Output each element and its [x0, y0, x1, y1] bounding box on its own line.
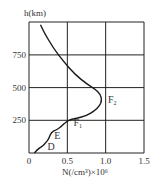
layer-label: E — [54, 130, 60, 141]
layer-label: F2 — [108, 94, 117, 106]
y-tick-label: 750 — [13, 50, 27, 60]
grid — [29, 22, 144, 153]
tick-labels: 00.51.01.5250500750 — [13, 50, 151, 166]
y-tick-label: 250 — [13, 115, 27, 125]
x-axis-label: N(/cm³)×10⁶ — [62, 167, 108, 177]
y-tick-label: 500 — [13, 83, 27, 93]
layer-label: F1 — [73, 117, 82, 129]
x-tick-label: 1.0 — [100, 156, 112, 166]
x-tick-label: 0.5 — [62, 156, 74, 166]
layer-label: D — [47, 141, 54, 152]
ionosphere-chart: 00.51.01.5250500750 DEF1F2 h(km) N(/cm³)… — [0, 0, 157, 183]
x-tick-label: 1.5 — [138, 156, 150, 166]
density-curve — [34, 25, 101, 153]
y-axis-label: h(km) — [24, 8, 46, 18]
x-tick-label: 0 — [27, 156, 32, 166]
